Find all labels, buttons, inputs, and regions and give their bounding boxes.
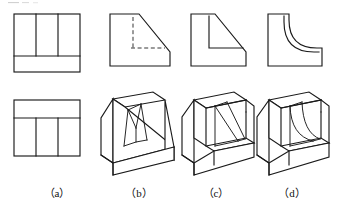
caption-b: （b） xyxy=(125,187,153,199)
caption-a: （a） xyxy=(44,187,71,199)
multiview-drawing-canvas: （a） （b） （c） （d） xyxy=(0,0,340,210)
view-a-top xyxy=(14,14,80,72)
caption-c: （c） xyxy=(203,187,230,199)
caption-d: （d） xyxy=(278,187,306,199)
drawing-sheet: （a） （b） （c） （d） xyxy=(0,0,340,210)
view-a-front xyxy=(14,100,80,156)
